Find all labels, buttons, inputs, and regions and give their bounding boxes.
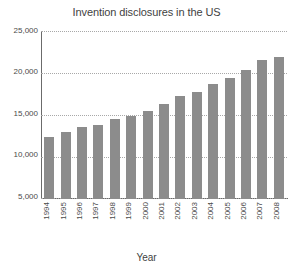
bar-chart: Invention disclosures in the US 25,000 2… xyxy=(0,0,293,276)
x-tick-label: 2004 xyxy=(206,202,220,220)
bar xyxy=(241,70,251,199)
bar xyxy=(143,111,153,199)
y-tick-label: 25,000 xyxy=(2,27,38,35)
y-tick-label: 10,000 xyxy=(2,151,38,159)
bar xyxy=(192,92,202,199)
bar xyxy=(126,116,136,199)
x-tick-label: 1994 xyxy=(42,202,56,220)
x-tick-label: 2003 xyxy=(190,202,204,220)
bar xyxy=(175,96,185,199)
bar xyxy=(77,127,87,199)
y-axis-tick-labels: 25,000 20,000 15,000 10,000 5,000 xyxy=(0,0,38,276)
x-tick-label: 1996 xyxy=(75,202,89,220)
x-axis-title: Year xyxy=(0,252,293,263)
x-tick-label: 2006 xyxy=(239,202,253,220)
bar xyxy=(93,125,103,199)
plot-area xyxy=(41,31,287,199)
x-tick-label: 1998 xyxy=(108,202,122,220)
bar xyxy=(225,78,235,199)
gridline-25000 xyxy=(41,31,287,32)
x-tick-label: 1997 xyxy=(91,202,105,220)
y-tick-label: 20,000 xyxy=(2,68,38,76)
chart-title: Invention disclosures in the US xyxy=(0,6,293,18)
x-tick-label: 2000 xyxy=(141,202,155,220)
x-tick-label: 1999 xyxy=(124,202,138,220)
bar xyxy=(61,132,71,199)
bar xyxy=(208,84,218,199)
y-tick-label: 15,000 xyxy=(2,110,38,118)
bar xyxy=(257,60,267,199)
y-tick-label: 5,000 xyxy=(2,193,38,201)
x-tick-label: 2008 xyxy=(272,202,286,220)
x-tick-label: 2001 xyxy=(157,202,171,220)
bar xyxy=(159,104,169,199)
bar xyxy=(110,119,120,199)
x-tick-label: 2005 xyxy=(223,202,237,220)
x-tick-label: 2002 xyxy=(173,202,187,220)
bar xyxy=(274,57,284,199)
bar xyxy=(44,137,54,200)
x-tick-label: 2007 xyxy=(255,202,269,220)
x-tick-label: 1995 xyxy=(59,202,73,220)
